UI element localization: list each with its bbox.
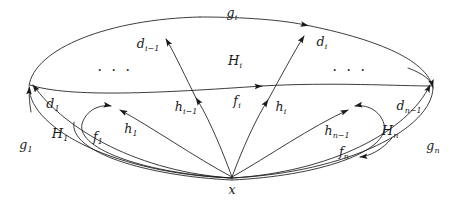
loop-f1 bbox=[82, 106, 232, 178]
ellipsis-right: · · · bbox=[333, 62, 368, 78]
label-H-1: H1 bbox=[52, 127, 69, 140]
ray-h-i bbox=[232, 100, 268, 177]
inner-arc-left-to-center bbox=[30, 85, 262, 93]
label-H-i: Hi bbox=[228, 54, 242, 67]
label-H-n: Hn bbox=[382, 124, 399, 137]
diagram-canvas bbox=[0, 0, 461, 207]
label-h-i: hi bbox=[276, 101, 287, 114]
ellipsis-left: · · · bbox=[98, 62, 133, 78]
label-g-n: gn bbox=[426, 140, 439, 153]
homotopy-diagram-figure: x gi di−1 Hi di d1 hi−1 fi hi dn−1 H1 f1… bbox=[0, 0, 461, 207]
inner-arc-center-to-right bbox=[262, 84, 432, 86]
ray-h1 bbox=[120, 110, 232, 177]
loop-fn-arrow2 bbox=[360, 138, 392, 157]
label-d-n-minus-1: dn−1 bbox=[396, 100, 421, 113]
label-g-i: gi bbox=[227, 7, 238, 20]
ray-h-n-minus-1 bbox=[232, 110, 348, 177]
basepoint-label-x: x bbox=[228, 184, 235, 197]
ray-d-i bbox=[268, 36, 304, 100]
label-g-1: g1 bbox=[19, 139, 32, 152]
label-f-1: f1 bbox=[93, 131, 103, 144]
label-d-1: d1 bbox=[46, 98, 59, 111]
label-d-i: di bbox=[317, 36, 328, 49]
outer-arc-left-arrowhead bbox=[29, 87, 31, 112]
ray-h-i-minus-1 bbox=[196, 98, 232, 177]
label-h-n-minus-1: hn−1 bbox=[324, 125, 349, 138]
label-f-n: fn bbox=[339, 146, 349, 159]
outer-arc-top-right-arrow bbox=[200, 17, 308, 26]
label-h-i-minus-1: hi−1 bbox=[175, 101, 198, 114]
label-h-1: h1 bbox=[124, 123, 137, 136]
ray-d-i-minus-1 bbox=[166, 39, 196, 98]
label-d-i-minus-1: di−1 bbox=[137, 38, 160, 51]
label-f-i: fi bbox=[233, 95, 240, 108]
loop-fn bbox=[232, 106, 384, 180]
outer-arc-right-arrowhead bbox=[408, 68, 433, 87]
